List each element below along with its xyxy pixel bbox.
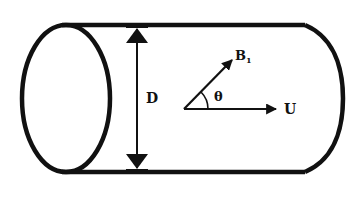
vector-b-subscript: 1 bbox=[246, 55, 252, 65]
diameter-dimension: D bbox=[126, 27, 158, 170]
vector-b1-arrow bbox=[184, 60, 232, 109]
arrow-down-icon bbox=[126, 154, 148, 169]
cylinder-left-end-ellipse bbox=[22, 25, 110, 172]
cylinder-right-end-arc bbox=[305, 25, 343, 172]
angle-theta-label: θ bbox=[214, 89, 223, 104]
vector-b-label: B1 bbox=[235, 48, 252, 65]
angle-arc bbox=[201, 92, 208, 109]
vectors bbox=[184, 60, 276, 109]
arrow-up-icon bbox=[126, 28, 148, 43]
vector-b-letter: B bbox=[235, 48, 246, 63]
vector-u-label: U bbox=[284, 101, 296, 117]
cylinder bbox=[22, 25, 343, 172]
cylinder-diagram: D U B1 θ bbox=[0, 0, 361, 199]
diameter-label: D bbox=[146, 90, 158, 106]
